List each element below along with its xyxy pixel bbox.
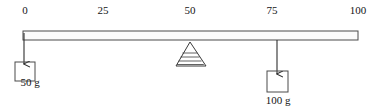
mass-50g-label: 50 g [20, 76, 39, 88]
diagram-shapes [0, 0, 388, 111]
meter-stick-bar [23, 31, 358, 40]
fulcrum-triangle [176, 42, 206, 66]
mass-100g-group [267, 40, 288, 92]
mass-100g-box [267, 71, 288, 92]
mass-100g-label: 100 g [266, 94, 291, 106]
lever-balance-diagram: 0 25 50 75 100 50 g [0, 0, 388, 111]
